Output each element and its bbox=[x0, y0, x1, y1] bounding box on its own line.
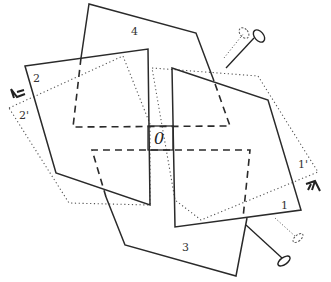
panel-2-prime-outline bbox=[9, 56, 150, 205]
diagram-canvas: 4 2 2' 1' 1 3 0 bbox=[0, 0, 331, 282]
label-panel-3: 3 bbox=[182, 241, 189, 254]
panel-4-outline bbox=[81, 4, 214, 81]
label-panel-2-prime: 2' bbox=[19, 109, 29, 122]
rotate-arrow-icon bbox=[306, 181, 320, 191]
label-panel-1: 1 bbox=[281, 199, 288, 212]
panel-3-hidden-edges bbox=[92, 150, 250, 218]
panel-3-outline bbox=[106, 197, 247, 276]
panel-1-prime-outline bbox=[152, 68, 318, 220]
label-panel-1-prime: 1' bbox=[298, 158, 308, 171]
label-panel-2: 2 bbox=[33, 72, 40, 85]
label-panel-4: 4 bbox=[131, 25, 138, 38]
label-center: 0 bbox=[154, 129, 164, 148]
pin-icon bbox=[224, 26, 267, 68]
pin-icon bbox=[246, 218, 305, 268]
rotate-arrow-icon bbox=[11, 89, 25, 98]
panel-2-outline bbox=[25, 49, 150, 205]
